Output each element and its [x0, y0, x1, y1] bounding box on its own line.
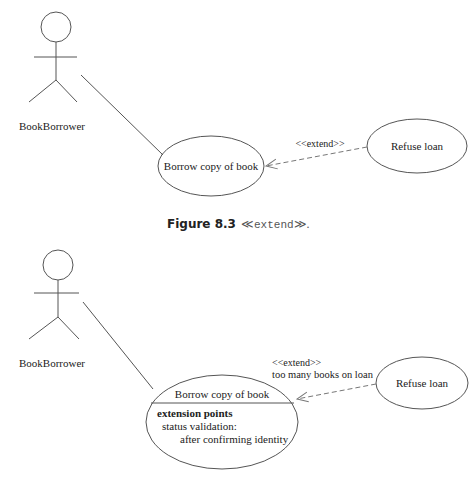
- diagram-2: BookBorrower Borrow copy of book extensi…: [19, 250, 468, 469]
- extension-point-detail: after confirming identity: [180, 433, 289, 445]
- extend-stereotype-label: <<extend>>: [295, 138, 345, 149]
- figure-caption: Figure 8.3 ≪extend≫.: [167, 217, 310, 231]
- actor-stick-figure-icon: [29, 250, 79, 339]
- use-case-label: Borrow copy of book: [175, 388, 270, 400]
- association-line: [83, 302, 153, 389]
- uml-use-case-figure: BookBorrower Borrow copy of book Refuse …: [0, 0, 475, 489]
- use-case-label: Borrow copy of book: [164, 160, 259, 172]
- figure-number: Figure 8.3: [167, 217, 236, 231]
- extend-dependency-arrow: [266, 147, 367, 166]
- caption-keyword: extend: [254, 219, 294, 231]
- use-case-refuse-loan: Refuse loan: [376, 357, 468, 409]
- diagram-1: BookBorrower Borrow copy of book Refuse …: [19, 12, 467, 196]
- extend-stereotype-label: <<extend>>: [272, 357, 322, 368]
- association-line: [81, 75, 163, 155]
- actor-label: BookBorrower: [19, 357, 85, 369]
- extension-point-name: status validation:: [162, 420, 237, 432]
- extend-condition-label: too many books on loan: [272, 369, 374, 380]
- extend-dependency-arrow: [297, 384, 376, 399]
- caption-right-guillemet: ≫: [294, 217, 307, 231]
- use-case-label: Refuse loan: [396, 377, 449, 389]
- use-case-refuse-loan: Refuse loan: [367, 119, 467, 173]
- actor-stick-figure-icon: [29, 12, 77, 102]
- use-case-label: Refuse loan: [391, 140, 444, 152]
- use-case-borrow-copy: Borrow copy of book: [158, 136, 264, 196]
- caption-period: .: [307, 217, 310, 231]
- use-case-borrow-copy-with-extension-points: Borrow copy of book extension points sta…: [146, 375, 298, 469]
- extension-points-heading: extension points: [157, 407, 233, 419]
- caption-left-guillemet: ≪: [241, 217, 254, 231]
- svg-text:≪extend≫.: ≪extend≫.: [241, 217, 310, 231]
- actor-label: BookBorrower: [19, 120, 85, 132]
